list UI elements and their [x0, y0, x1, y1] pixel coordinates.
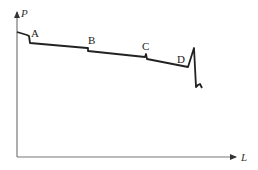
point-label-c: C	[142, 40, 149, 52]
point-label-d: D	[177, 53, 185, 65]
pressure-curve	[17, 32, 202, 88]
y-axis-label: P	[20, 7, 28, 19]
point-label-b: B	[88, 34, 95, 46]
point-label-a: A	[31, 27, 39, 39]
pressure-diagram: P L A B C D	[0, 0, 258, 170]
x-axis-label: L	[240, 151, 247, 163]
